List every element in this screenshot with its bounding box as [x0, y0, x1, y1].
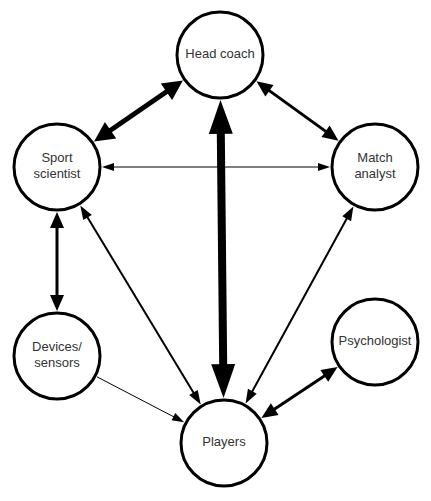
arrowhead-to-head_coach [209, 100, 233, 134]
arrowhead-to-head_coach [161, 80, 183, 100]
arrowhead-to-psychologist [320, 367, 337, 382]
arrowhead-to-sport_scientist [80, 206, 92, 221]
edge-line [86, 215, 195, 395]
arrowhead-to-players [211, 364, 235, 398]
node-label: Psychologist [339, 333, 412, 348]
node-label: Devices/ [32, 339, 82, 354]
edge-sport_scientist-players [80, 206, 200, 405]
node-label: scientist [34, 166, 81, 181]
arrowhead-to-players [261, 403, 278, 418]
node-label: Sport [41, 150, 72, 165]
node-sport-scientist: Sportscientist [14, 124, 100, 210]
nodes-layer: Head coachSportscientistMatchanalystDevi… [14, 12, 418, 486]
arrowhead-to-devices_sensors [50, 295, 64, 311]
edge-sport_scientist-head_coach [94, 80, 183, 141]
node-label: Head coach [185, 46, 254, 61]
node-label: Match [357, 150, 392, 165]
node-devices-sensors: Devices/sensors [14, 313, 100, 399]
arrowhead-to-players [172, 413, 184, 422]
edge-head_coach-players [209, 100, 235, 398]
edge-line [267, 89, 328, 133]
arrowhead-to-sport_scientist [50, 212, 64, 228]
edge-line [221, 127, 224, 371]
arrowhead-to-players [246, 389, 257, 404]
edge-match_analyst-players [246, 206, 354, 403]
collaboration-diagram: Head coachSportscientistMatchanalystDevi… [0, 0, 431, 501]
edge-line [251, 216, 348, 393]
arrowhead-to-match_analyst [342, 206, 353, 221]
edge-devices_sensors-players [97, 377, 184, 422]
node-label: Players [202, 434, 246, 449]
edge-sport_scientist-devices_sensors [50, 212, 64, 311]
node-match-analyst: Matchanalyst [332, 124, 418, 210]
edge-line [97, 377, 176, 418]
edge-psychologist-players [261, 367, 337, 418]
edge-head_coach-match_analyst [256, 81, 338, 140]
arrowhead-to-head_coach [256, 81, 273, 96]
arrowhead-to-match_analyst [321, 126, 338, 141]
arrowhead-to-players [189, 390, 201, 405]
node-head-coach: Head coach [177, 12, 263, 98]
arrowhead-to-sport_scientist [94, 122, 116, 142]
edge-sport_scientist-match_analyst [102, 163, 330, 171]
edge-line [107, 90, 169, 133]
edge-line [272, 374, 327, 411]
node-players: Players [181, 400, 267, 486]
node-psychologist: Psychologist [332, 299, 418, 385]
arrowhead-to-match_analyst [318, 163, 330, 171]
node-label: sensors [34, 355, 80, 370]
arrowhead-to-sport_scientist [102, 163, 114, 171]
node-label: analyst [354, 166, 396, 181]
